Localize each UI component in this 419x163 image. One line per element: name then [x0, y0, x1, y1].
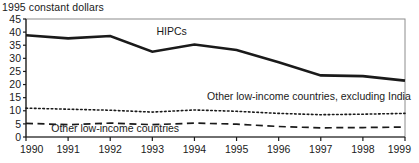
series-lines [26, 35, 405, 128]
line-chart-plot: 051015202530354045 199019911992199319941… [0, 0, 419, 163]
y-tick-label: 40 [9, 26, 21, 38]
series-label-0: HIPCs [157, 25, 187, 37]
y-tick-label: 25 [9, 65, 21, 77]
y-tick-label: 35 [9, 39, 21, 51]
x-tick-label: 1998 [351, 143, 375, 155]
series-label-2: Other low-income countries [51, 122, 179, 134]
y-tick-label: 15 [9, 91, 21, 103]
x-tick-label: 1992 [99, 143, 123, 155]
x-tick-label: 1997 [309, 143, 333, 155]
series-line-1 [26, 108, 405, 115]
x-tick-label: 1990 [20, 143, 44, 155]
series-label-1: Other low-income countries, excluding In… [207, 90, 411, 102]
y-tick-label: 0 [15, 131, 21, 143]
y-tick-label: 45 [9, 13, 21, 25]
y-tick-label: 30 [9, 52, 21, 64]
x-tick-label: 1996 [267, 143, 291, 155]
x-tick-label: 1999 [388, 143, 412, 155]
series-line-0 [26, 35, 405, 80]
x-tick-label: 1991 [56, 143, 80, 155]
y-tick-label: 20 [9, 78, 21, 90]
x-tick-label: 1994 [183, 143, 207, 155]
series-annotations: HIPCsOther low-income countries, excludi… [51, 25, 411, 134]
y-tick-label: 10 [9, 104, 21, 116]
x-axis: 1990199119921993199419951996199719981999 [20, 137, 411, 155]
chart-container: 1995 constant dollars 051015202530354045… [0, 0, 419, 163]
x-tick-label: 1995 [225, 143, 249, 155]
y-axis: 051015202530354045 [9, 13, 26, 143]
x-tick-label: 1993 [141, 143, 165, 155]
y-tick-label: 5 [15, 118, 21, 130]
